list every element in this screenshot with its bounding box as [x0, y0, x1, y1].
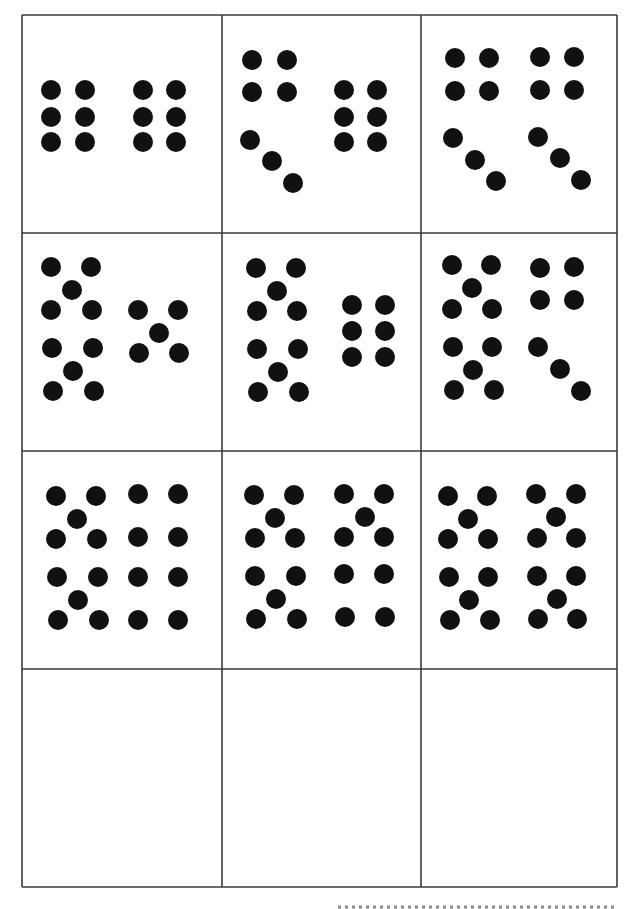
- dot: [355, 507, 375, 527]
- dot: [265, 508, 285, 528]
- dot: [75, 132, 95, 152]
- dot: [367, 80, 387, 100]
- dot: [480, 610, 500, 630]
- card-background: [222, 15, 421, 233]
- dot: [128, 567, 148, 587]
- dot: [133, 80, 153, 100]
- dot: [459, 590, 479, 610]
- dot: [550, 359, 570, 379]
- dot: [527, 528, 547, 548]
- dot-card: [421, 451, 617, 669]
- dot: [47, 567, 67, 587]
- dot: [168, 300, 188, 320]
- dot: [48, 610, 68, 630]
- dot: [547, 589, 567, 609]
- dot: [334, 484, 354, 504]
- dot-card: [22, 15, 222, 233]
- dot: [87, 529, 107, 549]
- dot: [564, 257, 584, 277]
- dot: [438, 486, 458, 506]
- dot: [289, 382, 309, 402]
- card-background: [22, 669, 222, 887]
- dot: [286, 566, 306, 586]
- dot: [530, 47, 550, 67]
- dot: [546, 507, 566, 527]
- dot: [288, 339, 308, 359]
- dot: [367, 107, 387, 127]
- dot: [128, 300, 148, 320]
- dot: [530, 80, 550, 100]
- dot: [335, 607, 355, 627]
- dot: [82, 300, 102, 320]
- dot: [244, 485, 264, 505]
- dot: [334, 107, 354, 127]
- dot: [334, 564, 354, 584]
- dot-card: [222, 233, 421, 451]
- dot-card: [222, 15, 421, 233]
- dot: [262, 151, 282, 171]
- dot: [443, 337, 463, 357]
- dot: [41, 80, 61, 100]
- card-background: [22, 451, 222, 669]
- dot: [564, 80, 584, 100]
- dot: [439, 567, 459, 587]
- dot: [88, 567, 108, 587]
- dot: [462, 278, 482, 298]
- card-background: [222, 451, 421, 669]
- dot: [571, 170, 591, 190]
- dot: [81, 257, 101, 277]
- dot: [375, 347, 395, 367]
- dot: [245, 528, 265, 548]
- dot: [245, 566, 265, 586]
- dot: [84, 381, 104, 401]
- dot: [283, 173, 303, 193]
- dot: [342, 295, 362, 315]
- dot: [128, 610, 148, 630]
- dot: [478, 529, 498, 549]
- dot: [564, 47, 584, 67]
- dot: [566, 484, 586, 504]
- dot: [168, 527, 188, 547]
- dot: [444, 380, 464, 400]
- dot: [287, 609, 307, 629]
- card-background: [421, 15, 617, 233]
- dot-card: [22, 669, 222, 887]
- dot: [528, 337, 548, 357]
- dot: [486, 171, 506, 191]
- dot: [445, 48, 465, 68]
- dot: [149, 323, 169, 343]
- dot: [266, 589, 286, 609]
- dot-card: [22, 233, 222, 451]
- dot: [286, 258, 306, 278]
- dot: [43, 381, 63, 401]
- dot: [564, 290, 584, 310]
- dot: [129, 343, 149, 363]
- card-background: [222, 669, 421, 887]
- dot-card: [421, 669, 617, 887]
- dot: [166, 107, 186, 127]
- dot: [169, 343, 189, 363]
- dot: [442, 255, 462, 275]
- dot: [267, 281, 287, 301]
- dot: [334, 132, 354, 152]
- dot: [440, 610, 460, 630]
- dot: [566, 566, 586, 586]
- dot: [277, 82, 297, 102]
- dot: [41, 132, 61, 152]
- dot: [442, 299, 462, 319]
- dot: [479, 81, 499, 101]
- dot: [166, 132, 186, 152]
- dot-card: [222, 669, 421, 887]
- dot-card-worksheet: [0, 0, 637, 909]
- dot: [133, 107, 153, 127]
- dot: [168, 484, 188, 504]
- dot: [41, 300, 61, 320]
- dot: [246, 258, 266, 278]
- dot: [478, 567, 498, 587]
- dot: [240, 130, 260, 150]
- dot: [284, 485, 304, 505]
- dot: [242, 50, 262, 70]
- dot: [342, 347, 362, 367]
- dot: [566, 528, 586, 548]
- dot: [248, 382, 268, 402]
